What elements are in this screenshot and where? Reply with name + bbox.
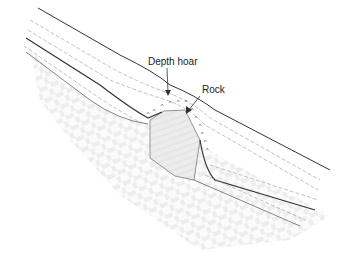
- svg-text:^: ^: [200, 131, 204, 137]
- snowpack-illustration: ^^^ ^^^ ^^^ ^^^: [0, 0, 346, 264]
- svg-text:^: ^: [198, 123, 202, 129]
- svg-text:^: ^: [152, 108, 156, 114]
- depth-hoar-leader: [167, 68, 168, 92]
- svg-text:^: ^: [160, 103, 164, 109]
- svg-text:^: ^: [184, 99, 188, 105]
- depth-hoar-label: Depth hoar: [148, 56, 197, 67]
- rock-label: Rock: [202, 84, 225, 95]
- svg-text:^: ^: [205, 147, 209, 153]
- svg-text:^: ^: [176, 99, 180, 105]
- svg-text:^: ^: [168, 100, 172, 106]
- svg-text:^: ^: [194, 115, 198, 121]
- svg-text:^: ^: [146, 111, 150, 117]
- snowpack-diagram: ^^^ ^^^ ^^^ ^^^ Depth hoar Rock: [0, 0, 346, 264]
- svg-text:^: ^: [203, 139, 207, 145]
